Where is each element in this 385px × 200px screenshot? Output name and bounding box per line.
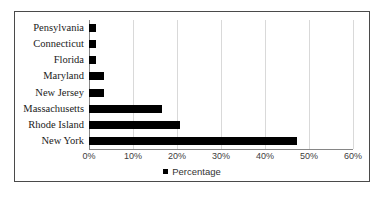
bar xyxy=(89,89,104,97)
category-label: Connecticut xyxy=(33,39,84,50)
category-label: New York xyxy=(41,136,84,147)
chart-container: PensylvaniaConnecticutFloridaMarylandNew… xyxy=(14,11,370,182)
x-tick-label: 20% xyxy=(168,151,186,161)
x-tick-label: 30% xyxy=(212,151,230,161)
category-label: Florida xyxy=(54,55,84,66)
x-tick-label: 0% xyxy=(82,151,95,161)
bar xyxy=(89,121,180,129)
bar-row: Maryland xyxy=(89,68,353,84)
bar-row: New Jersey xyxy=(89,85,353,101)
bar xyxy=(89,105,162,113)
bar xyxy=(89,56,96,64)
chart-legend: Percentage xyxy=(15,166,369,177)
bar-row: Massachusetts xyxy=(89,101,353,117)
bar-row: New York xyxy=(89,133,353,149)
x-tick-label: 40% xyxy=(256,151,274,161)
legend-label-percentage: Percentage xyxy=(172,166,221,177)
gridline xyxy=(353,20,354,149)
plot-area: PensylvaniaConnecticutFloridaMarylandNew… xyxy=(89,20,353,149)
bar-row: Florida xyxy=(89,52,353,68)
bar xyxy=(89,137,297,145)
bar-row: Connecticut xyxy=(89,36,353,52)
bar-row: Rhode Island xyxy=(89,117,353,133)
legend-swatch-percentage xyxy=(163,169,168,174)
x-tick-label: 50% xyxy=(300,151,318,161)
x-tick-label: 60% xyxy=(344,151,362,161)
category-label: Massachusetts xyxy=(23,103,84,114)
x-tick-label: 10% xyxy=(124,151,142,161)
category-label: Pensylvania xyxy=(33,23,84,34)
bar xyxy=(89,72,104,80)
bar xyxy=(89,40,96,48)
category-axis-line xyxy=(89,149,353,150)
category-label: New Jersey xyxy=(35,87,84,98)
category-label: Rhode Island xyxy=(28,120,84,131)
category-label: Maryland xyxy=(43,71,84,82)
bar-row: Pensylvania xyxy=(89,20,353,36)
bar xyxy=(89,24,96,32)
